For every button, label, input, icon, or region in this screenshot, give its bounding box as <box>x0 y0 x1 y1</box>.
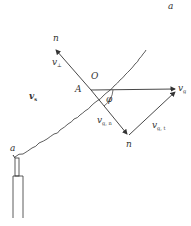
vg-arrow <box>91 89 175 90</box>
label-v-gn: vg, n <box>97 116 112 126</box>
label-A: A <box>75 85 82 94</box>
label-v-s: vs <box>29 92 37 102</box>
label-v-g: vg <box>178 84 186 94</box>
label-O: O <box>91 72 98 81</box>
electrode-icon <box>13 155 23 218</box>
wire-velocity-diagram: a n v⊥ O A vs vg φ vg, n vg, t n a <box>0 0 191 226</box>
label-v-gt: vg, t <box>152 121 165 131</box>
label-a-top: a <box>168 2 173 11</box>
diagram-graphics <box>0 0 191 226</box>
label-n-bottom: n <box>126 140 132 149</box>
label-n-top: n <box>53 34 59 43</box>
normal-arrow <box>56 50 91 90</box>
label-a-bottom: a <box>10 144 15 153</box>
label-v-perp: v⊥ <box>52 58 62 68</box>
label-phi: φ <box>106 95 112 104</box>
